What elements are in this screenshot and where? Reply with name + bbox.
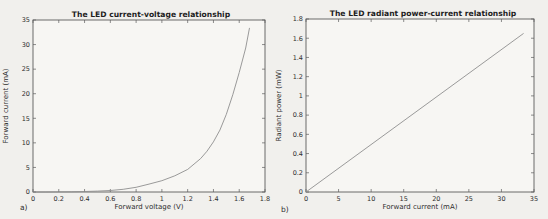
x-tick-label: 1.8: [260, 195, 270, 203]
x-axis-label: Forward voltage (V): [114, 203, 183, 211]
y-tick-label: 0.4: [293, 150, 303, 158]
x-tick-label: 1.4: [208, 195, 218, 203]
y-tick-label: 0.8: [293, 111, 303, 119]
y-tick-label: 1.6: [293, 35, 303, 43]
chart-led-current-voltage: The LED current-voltage relationship For…: [0, 0, 274, 219]
chart-title: The LED radiant power-current relationsh…: [330, 9, 517, 18]
y-tick-label: 0: [26, 188, 30, 196]
y-tick-label: 15: [22, 115, 30, 123]
x-axis-label: Forward current (mA): [383, 203, 458, 211]
x-tick-label: 25: [465, 195, 473, 203]
x-tick-label: 5: [337, 195, 341, 203]
y-tick-label: 1.4: [293, 54, 303, 62]
panel-label-b: b): [281, 205, 289, 214]
chart-led-radiant-power-current: The LED radiant power-current relationsh…: [274, 0, 548, 219]
x-tick-label: 0: [31, 195, 35, 203]
y-tick-label: 35: [22, 16, 30, 24]
y-tick-label: 1.8: [293, 15, 303, 23]
x-tick-label: 0.4: [79, 195, 89, 203]
y-axis-label: Forward current (mA): [2, 68, 10, 143]
y-tick-label: 5: [26, 164, 30, 172]
plot-frame: [306, 19, 534, 192]
y-tick-label: 25: [22, 65, 30, 73]
x-tick-label: 30: [497, 195, 505, 203]
chart-title: The LED current-voltage relationship: [72, 10, 231, 19]
y-axis-label: Radiant power (mW): [275, 69, 283, 141]
x-tick-label: 1: [160, 195, 164, 203]
plot-frame: [33, 20, 265, 192]
x-tick-label: 1.6: [234, 195, 244, 203]
x-tick-label: 15: [400, 195, 408, 203]
y-tick-label: 30: [22, 41, 30, 49]
y-tick-label: 1: [299, 92, 303, 100]
y-tick-label: 10: [22, 139, 30, 147]
x-tick-label: 1.2: [182, 195, 192, 203]
y-tick-label: 0: [299, 188, 303, 196]
x-tick-label: 10: [367, 195, 375, 203]
x-tick-label: 0: [304, 195, 308, 203]
x-tick-label: 0.8: [131, 195, 141, 203]
x-tick-label: 0.2: [54, 195, 64, 203]
panel-label-a: a): [20, 203, 28, 212]
x-tick-label: 0.6: [105, 195, 115, 203]
x-tick-label: 35: [530, 195, 538, 203]
y-tick-label: 0.6: [293, 131, 303, 139]
figure-canvas: The LED current-voltage relationship For…: [0, 0, 548, 219]
y-tick-label: 20: [22, 90, 30, 98]
x-tick-label: 20: [432, 195, 440, 203]
y-tick-label: 1.2: [293, 73, 303, 81]
y-tick-label: 0.2: [293, 169, 303, 177]
